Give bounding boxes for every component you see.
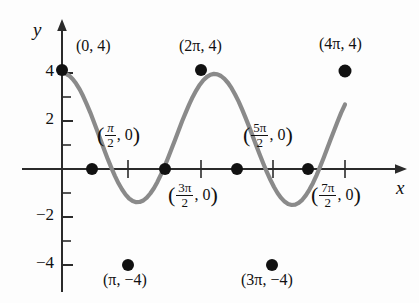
x-axis-label: x bbox=[396, 178, 404, 197]
point-marker-3pi2-0 bbox=[159, 163, 171, 175]
y-tick-label-neg2: −2 bbox=[20, 206, 54, 223]
fraction-pi-over-2: π2 bbox=[105, 121, 116, 150]
point-label-7pi2-0: (7π2, 0) bbox=[311, 182, 361, 211]
label-comma-zero: , 0 bbox=[269, 126, 285, 143]
point-label-3pi2-0: (3π2, 0) bbox=[168, 182, 218, 211]
graph-figure: y x 4 2 −2 −4 (0, 4) (2π, 4) (4π, 4) (π,… bbox=[0, 0, 419, 303]
point-marker-3pi-neg4 bbox=[266, 259, 278, 271]
point-marker-4pi-4 bbox=[339, 65, 352, 78]
paren-open: ( bbox=[168, 182, 175, 207]
label-comma-zero: , 0 bbox=[337, 186, 353, 203]
fraction-denominator: 2 bbox=[176, 196, 193, 210]
y-tick-label-4: 4 bbox=[30, 62, 54, 79]
y-tick-label-2: 2 bbox=[30, 110, 54, 127]
point-marker-5pi2-0 bbox=[231, 163, 243, 175]
point-marker-2pi-4 bbox=[195, 64, 207, 76]
fraction-3pi-over-2: 3π2 bbox=[176, 181, 193, 210]
point-marker-7pi2-0 bbox=[302, 163, 314, 175]
paren-open: ( bbox=[311, 182, 318, 207]
point-marker-0-4 bbox=[56, 64, 68, 76]
fraction-5pi-over-2: 5π2 bbox=[251, 121, 268, 150]
y-tick-label-neg4: −4 bbox=[20, 254, 54, 271]
fraction-numerator: 3π bbox=[176, 181, 193, 196]
paren-open: ( bbox=[97, 122, 104, 147]
point-label-3pi-neg4: (3π, −4) bbox=[241, 272, 293, 288]
fraction-denominator: 2 bbox=[105, 136, 116, 150]
label-comma-zero: , 0 bbox=[117, 126, 133, 143]
paren-close: ) bbox=[210, 182, 217, 207]
fraction-numerator: π bbox=[105, 121, 116, 136]
point-label-5pi2-0: (5π2, 0) bbox=[243, 122, 293, 151]
point-label-2pi-4: (2π, 4) bbox=[179, 38, 222, 54]
y-axis-arrow-icon bbox=[57, 19, 67, 31]
fraction-denominator: 2 bbox=[251, 136, 268, 150]
point-label-pi-neg4: (π, −4) bbox=[103, 272, 147, 288]
paren-close: ) bbox=[133, 122, 140, 147]
point-marker-pi2-0 bbox=[86, 163, 98, 175]
plot-point-markers bbox=[56, 64, 352, 271]
fraction-numerator: 7π bbox=[319, 181, 336, 196]
fraction-denominator: 2 bbox=[319, 196, 336, 210]
y-axis-label: y bbox=[33, 20, 41, 39]
label-comma-zero: , 0 bbox=[194, 186, 210, 203]
fraction-7pi-over-2: 7π2 bbox=[319, 181, 336, 210]
fraction-numerator: 5π bbox=[251, 121, 268, 136]
paren-close: ) bbox=[285, 122, 292, 147]
point-marker-pi-neg4 bbox=[122, 259, 134, 271]
x-axis-arrow-icon bbox=[395, 164, 407, 174]
point-label-pi2-0: (π2, 0) bbox=[97, 122, 140, 151]
point-label-4pi-4: (4π, 4) bbox=[319, 36, 362, 52]
point-label-0-4: (0, 4) bbox=[76, 38, 111, 54]
paren-close: ) bbox=[353, 182, 360, 207]
paren-open: ( bbox=[243, 122, 250, 147]
